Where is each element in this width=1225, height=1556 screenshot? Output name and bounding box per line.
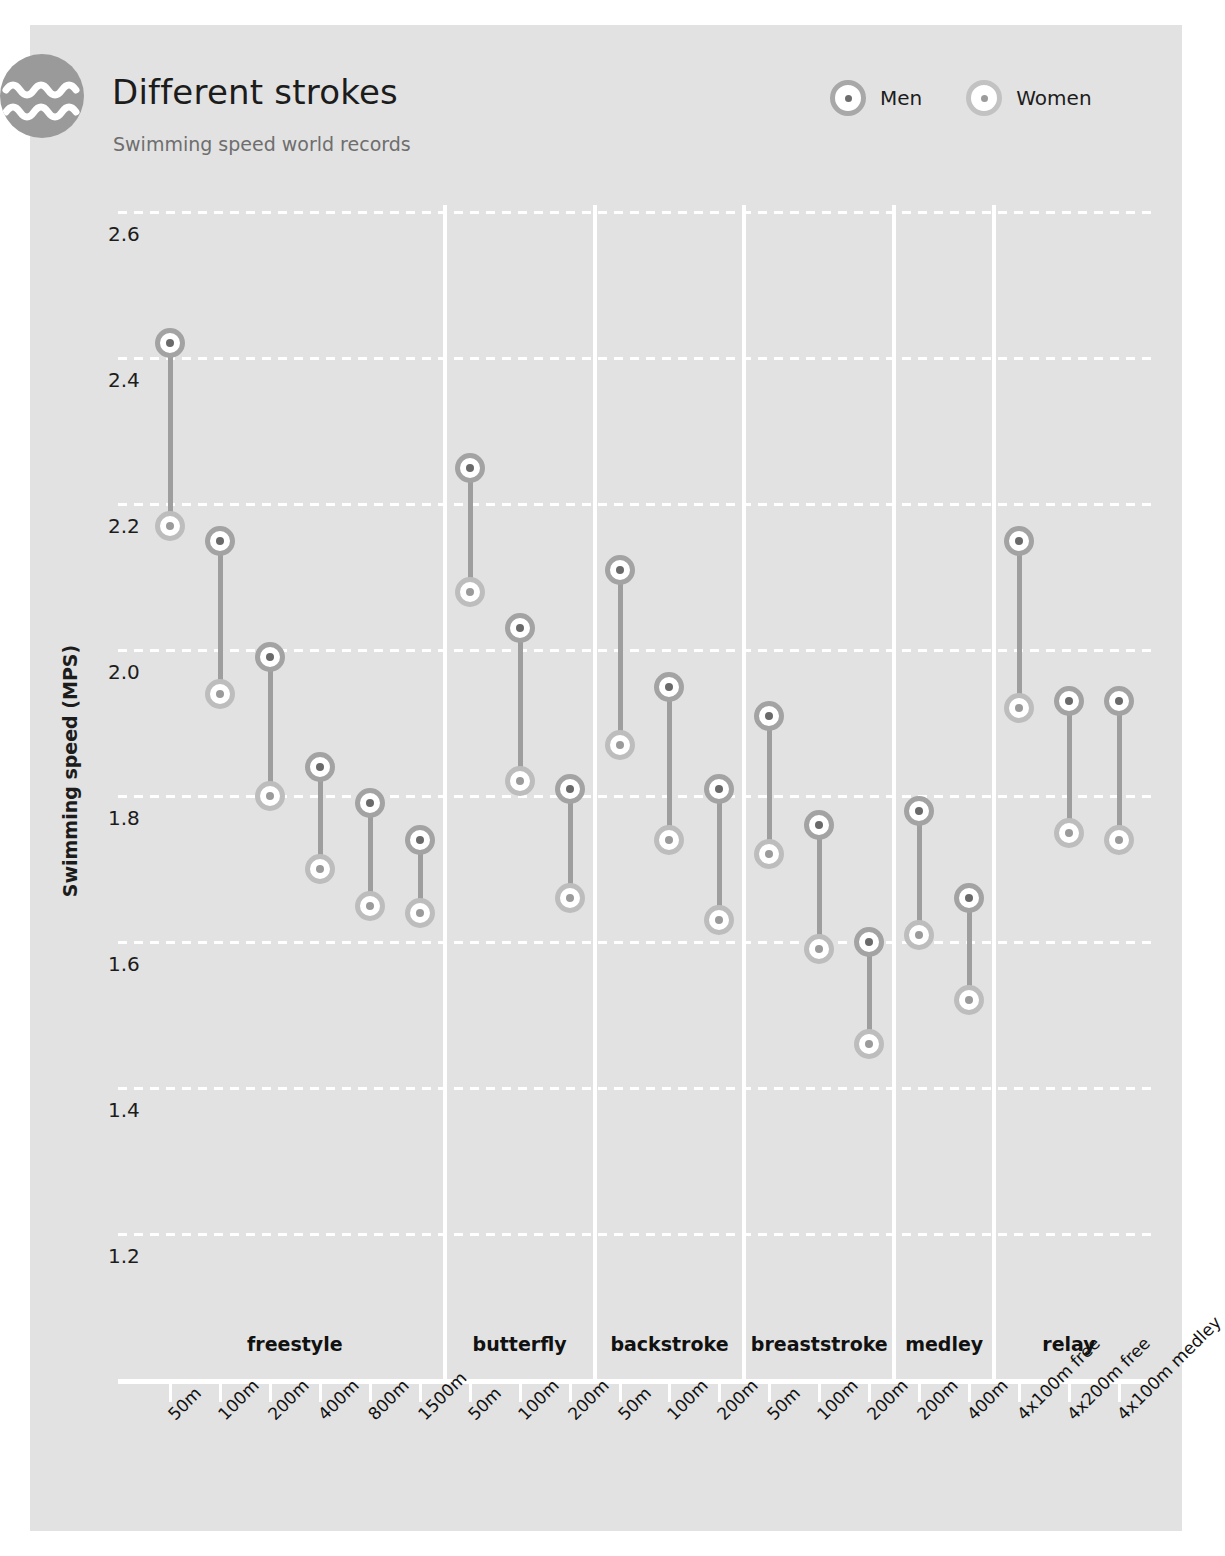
data-point-men[interactable]	[555, 774, 585, 804]
data-point-women[interactable]	[804, 934, 834, 964]
y-axis-tick-label: 2.4	[108, 368, 140, 392]
group-separator	[593, 205, 597, 1380]
x-axis-tick	[319, 1384, 322, 1402]
data-point-women[interactable]	[255, 781, 285, 811]
data-point-men[interactable]	[355, 788, 385, 818]
data-point-men[interactable]	[754, 701, 784, 731]
connector-line	[618, 570, 623, 745]
gridline	[118, 503, 1158, 506]
data-point-men[interactable]	[1054, 686, 1084, 716]
data-point-women[interactable]	[704, 905, 734, 935]
group-label-medley: medley	[905, 1333, 983, 1355]
connector-line	[717, 789, 722, 920]
data-point-men[interactable]	[654, 672, 684, 702]
data-point-men[interactable]	[255, 642, 285, 672]
x-axis-tick	[968, 1384, 971, 1402]
data-point-women[interactable]	[555, 883, 585, 913]
connector-line	[1067, 701, 1072, 832]
group-label-backstroke: backstroke	[610, 1333, 728, 1355]
x-axis-tick	[1068, 1384, 1071, 1402]
y-axis-tick-label: 1.8	[108, 806, 140, 830]
group-label-butterfly: butterfly	[473, 1333, 567, 1355]
y-axis-tick-label: 1.2	[108, 1244, 140, 1268]
connector-line	[817, 825, 822, 949]
x-axis-tick	[1118, 1384, 1121, 1402]
connector-line	[568, 789, 573, 899]
gridline	[118, 357, 1158, 360]
data-point-women[interactable]	[1054, 818, 1084, 848]
group-separator	[742, 205, 746, 1380]
data-point-women[interactable]	[854, 1029, 884, 1059]
gridline	[118, 211, 1158, 214]
x-axis-tick	[718, 1384, 721, 1402]
group-separator	[992, 205, 996, 1380]
data-point-men[interactable]	[605, 555, 635, 585]
connector-line	[468, 468, 473, 592]
data-point-men[interactable]	[455, 453, 485, 483]
x-axis-tick	[619, 1384, 622, 1402]
connector-line	[268, 657, 273, 796]
x-axis-tick	[818, 1384, 821, 1402]
connector-line	[1117, 701, 1122, 840]
y-axis-tick-label: 2.0	[108, 660, 140, 684]
waves-icon	[0, 54, 84, 138]
data-point-women[interactable]	[455, 577, 485, 607]
data-point-women[interactable]	[355, 891, 385, 921]
data-point-women[interactable]	[1004, 693, 1034, 723]
connector-line	[1017, 541, 1022, 709]
data-point-women[interactable]	[605, 730, 635, 760]
gridline	[118, 1233, 1158, 1236]
x-axis-tick	[219, 1384, 222, 1402]
x-axis-tick	[1018, 1384, 1021, 1402]
data-point-women[interactable]	[954, 985, 984, 1015]
x-axis-tick	[868, 1384, 871, 1402]
data-point-women[interactable]	[654, 825, 684, 855]
data-point-men[interactable]	[505, 613, 535, 643]
connector-line	[518, 628, 523, 781]
data-point-women[interactable]	[1104, 825, 1134, 855]
data-point-men[interactable]	[704, 774, 734, 804]
connector-line	[917, 811, 922, 935]
data-point-women[interactable]	[205, 679, 235, 709]
connector-line	[667, 687, 672, 840]
y-axis-tick-label: 1.4	[108, 1098, 140, 1122]
connector-line	[218, 541, 223, 694]
y-axis-title: Swimming speed (MPS)	[59, 641, 81, 901]
data-point-men[interactable]	[1104, 686, 1134, 716]
data-point-women[interactable]	[754, 839, 784, 869]
connector-line	[767, 716, 772, 855]
connector-line	[168, 343, 173, 526]
data-point-men[interactable]	[205, 526, 235, 556]
group-label-freestyle: freestyle	[247, 1333, 343, 1355]
data-point-men[interactable]	[854, 927, 884, 957]
data-point-women[interactable]	[505, 766, 535, 796]
group-separator	[443, 205, 447, 1380]
data-point-men[interactable]	[804, 810, 834, 840]
group-label-breaststroke: breaststroke	[751, 1333, 888, 1355]
y-axis-tick-label: 2.2	[108, 514, 140, 538]
data-point-women[interactable]	[155, 511, 185, 541]
data-point-women[interactable]	[904, 920, 934, 950]
data-point-women[interactable]	[305, 854, 335, 884]
x-axis-tick	[918, 1384, 921, 1402]
x-axis-tick	[169, 1384, 172, 1402]
data-point-men[interactable]	[1004, 526, 1034, 556]
data-point-men[interactable]	[305, 752, 335, 782]
x-axis-tick	[469, 1384, 472, 1402]
x-axis-tick	[519, 1384, 522, 1402]
data-point-men[interactable]	[904, 796, 934, 826]
data-point-men[interactable]	[405, 825, 435, 855]
x-axis-tick	[569, 1384, 572, 1402]
x-axis-tick	[768, 1384, 771, 1402]
data-point-women[interactable]	[405, 898, 435, 928]
data-point-men[interactable]	[155, 328, 185, 358]
y-axis-tick-label: 1.6	[108, 952, 140, 976]
gridline	[118, 1087, 1158, 1090]
group-separator	[892, 205, 896, 1380]
data-point-men[interactable]	[954, 883, 984, 913]
x-axis-tick	[668, 1384, 671, 1402]
x-axis-tick	[369, 1384, 372, 1402]
x-axis-tick	[269, 1384, 272, 1402]
